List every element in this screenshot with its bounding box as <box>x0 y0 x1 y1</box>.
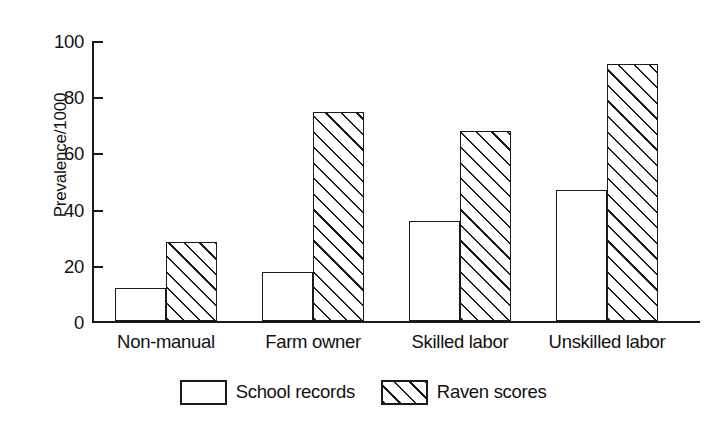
legend-label-raven-scores: Raven scores <box>437 383 547 402</box>
y-tick-label: 80 <box>38 89 84 108</box>
legend-swatch-hatched <box>381 380 428 405</box>
y-axis-tick-labels: 020406080100 <box>36 0 84 427</box>
bar-unskilled-labor-school-records <box>556 190 607 321</box>
x-axis-category-labels: Non-manualFarm ownerSkilled laborUnskill… <box>92 330 700 356</box>
legend-item-raven-scores: Raven scores <box>381 380 547 405</box>
legend-swatch-white <box>180 380 227 405</box>
chart-legend: School records Raven scores <box>0 375 726 409</box>
y-tick-label: 20 <box>38 258 84 277</box>
legend-item-school-records: School records <box>180 380 355 405</box>
plot-area <box>92 42 700 323</box>
x-category-label: Farm owner <box>238 330 388 354</box>
x-category-label: Skilled labor <box>385 330 535 354</box>
x-category-label: Non-manual <box>91 330 241 354</box>
y-tick-label: 0 <box>38 314 84 333</box>
bar-non-manual-raven-scores <box>166 242 217 322</box>
bar-farm-owner-school-records <box>262 272 313 321</box>
bar-unskilled-labor-raven-scores <box>607 64 658 321</box>
bar-chart-figure: Prevalence/1000 020406080100 Non-manualF… <box>0 0 726 427</box>
legend-label-school-records: School records <box>236 383 355 402</box>
y-tick-label: 100 <box>38 33 84 52</box>
bar-skilled-labor-raven-scores <box>460 131 511 321</box>
y-tick-label: 60 <box>38 145 84 164</box>
bar-non-manual-school-records <box>115 288 166 321</box>
bar-farm-owner-raven-scores <box>313 112 364 321</box>
x-axis-line <box>92 321 700 323</box>
bar-skilled-labor-school-records <box>409 221 460 321</box>
bar-group-container <box>92 42 700 321</box>
x-category-label: Unskilled labor <box>532 330 682 354</box>
y-tick-label: 40 <box>38 202 84 221</box>
